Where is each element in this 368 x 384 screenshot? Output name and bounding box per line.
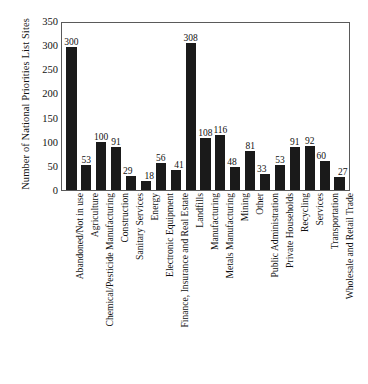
x-label-slot: Wholesale and Retail Trade (333, 193, 348, 383)
bar: 116 (215, 135, 225, 190)
bar: 41 (171, 170, 181, 190)
bar-slot: 27 (332, 23, 347, 190)
bar-slot: 116 (213, 23, 228, 190)
bar-value-label: 81 (245, 141, 255, 151)
bar-value-label: 100 (94, 132, 108, 142)
bar-slot: 56 (153, 23, 168, 190)
x-label-slot: Transportation (318, 193, 333, 383)
bar-slot: 91 (109, 23, 124, 190)
bar: 48 (230, 167, 240, 190)
bar: 27 (334, 177, 344, 190)
bar-value-label: 53 (82, 155, 92, 165)
bar-slot: 53 (79, 23, 94, 190)
x-label-slot: Manufacturing (198, 193, 213, 383)
bar-value-label: 48 (227, 157, 237, 167)
x-label-slot: Services (303, 193, 318, 383)
bar-slot: 300 (64, 23, 79, 190)
y-tick-label: 200 (24, 89, 58, 99)
bar-slot: 48 (228, 23, 243, 190)
y-tick-label: 250 (24, 65, 58, 75)
bar-value-label: 33 (257, 164, 267, 174)
x-label-slot: Private Households (273, 193, 288, 383)
bar-slot: 81 (243, 23, 258, 190)
bar: 91 (111, 147, 121, 190)
bar-slot: 60 (317, 23, 332, 190)
x-tick-label: Wholesale and Retail Trade (345, 193, 355, 299)
bar-slot: 100 (94, 23, 109, 190)
bar-slot: 18 (138, 23, 153, 190)
x-label-slot: Public Administration (258, 193, 273, 383)
bar: 92 (305, 146, 315, 190)
bar-value-label: 27 (338, 167, 348, 177)
bar: 100 (96, 142, 106, 190)
x-label-slot: Electronic Equipment (153, 193, 168, 383)
x-label-slot: Metals Manufacturing (213, 193, 228, 383)
bar: 308 (186, 43, 196, 190)
bar-slot: 108 (198, 23, 213, 190)
y-tick-label: 0 (24, 186, 58, 196)
y-tick-label: 50 (24, 162, 58, 172)
bar-value-label: 300 (64, 37, 78, 47)
bar-value-label: 29 (123, 166, 133, 176)
bar: 91 (290, 147, 300, 190)
bar-value-label: 53 (275, 155, 285, 165)
bar: 18 (141, 181, 151, 190)
bar-value-label: 91 (290, 137, 300, 147)
x-label-slot: Energy (138, 193, 153, 383)
x-label-slot: Abandoned/Not in use (63, 193, 78, 383)
bar-value-label: 116 (213, 125, 227, 135)
bar: 300 (66, 47, 76, 190)
bar: 29 (126, 176, 136, 190)
bar: 33 (260, 174, 270, 190)
bar-series: 3005310091291856413081081164881335391926… (62, 23, 349, 190)
bar: 53 (275, 165, 285, 190)
bar: 108 (200, 138, 210, 190)
y-tick-label: 350 (24, 17, 58, 27)
x-label-slot: Mining (228, 193, 243, 383)
bar-slot: 41 (168, 23, 183, 190)
bar-value-label: 91 (111, 137, 121, 147)
bar-slot: 53 (272, 23, 287, 190)
bar-value-label: 308 (183, 33, 197, 43)
bar-value-label: 92 (305, 136, 315, 146)
x-label-slot: Chemical/Pesticide Manufacturing (93, 193, 108, 383)
y-tick-label: 100 (24, 138, 58, 148)
bar-chart-figure: Number of National Priorities List Sites… (0, 0, 368, 384)
x-label-slot: Finance, Insurance and Real Estate (168, 193, 183, 383)
x-label-slot: Other (243, 193, 258, 383)
bar-slot: 308 (183, 23, 198, 190)
bar: 81 (245, 151, 255, 190)
x-label-slot: Sanitary Services (123, 193, 138, 383)
bar-slot: 91 (287, 23, 302, 190)
x-axis-tick-labels: Abandoned/Not in useAgricultureChemical/… (61, 193, 350, 383)
bar-slot: 33 (258, 23, 273, 190)
y-tick-label: 150 (24, 114, 58, 124)
x-label-slot: Construction (108, 193, 123, 383)
bar: 53 (81, 165, 91, 190)
y-axis-tick-labels: 350300250200150100500 (24, 0, 58, 384)
x-label-slot: Recycling (288, 193, 303, 383)
bar: 56 (156, 163, 166, 190)
bar-value-label: 60 (317, 151, 327, 161)
x-label-slot: Agriculture (78, 193, 93, 383)
bar-slot: 29 (124, 23, 139, 190)
bar-value-label: 108 (198, 128, 212, 138)
bar: 60 (320, 161, 330, 190)
x-label-slot: Landfills (183, 193, 198, 383)
bar-value-label: 56 (156, 153, 166, 163)
y-tick-label: 300 (24, 41, 58, 51)
plot-area: 3005310091291856413081081164881335391926… (61, 22, 350, 191)
bar-slot: 92 (302, 23, 317, 190)
